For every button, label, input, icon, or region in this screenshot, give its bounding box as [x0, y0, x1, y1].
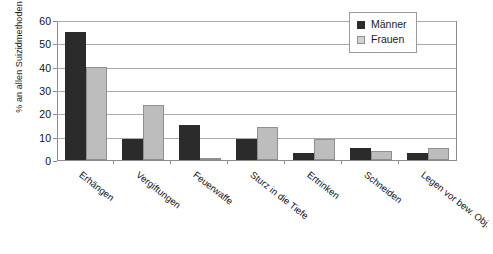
- bar-frauen: [257, 127, 278, 160]
- y-tick-label: 60: [39, 15, 51, 27]
- y-tick-label: 0: [45, 155, 51, 167]
- bar-maenner: [122, 139, 143, 160]
- legend-label-frauen: Frauen: [371, 32, 404, 47]
- x-axis-label: Erhängen: [77, 169, 116, 203]
- bar-maenner: [407, 153, 428, 160]
- legend-item-maenner: Männer: [357, 17, 407, 32]
- x-tick-mark: [113, 160, 114, 164]
- y-tick-label: 30: [39, 85, 51, 97]
- bar-maenner: [236, 139, 257, 160]
- legend: Männer Frauen: [349, 12, 417, 53]
- bar-group: [114, 21, 171, 160]
- bar-frauen: [314, 139, 335, 160]
- legend-swatch-icon-frauen: [357, 36, 365, 44]
- x-axis-label: Ertrinken: [305, 169, 342, 201]
- y-tick-label: 10: [39, 132, 51, 144]
- bar-frauen: [428, 148, 449, 160]
- legend-swatch-icon-maenner: [357, 21, 365, 29]
- y-tick-label: 40: [39, 62, 51, 74]
- x-tick-mark: [284, 160, 285, 164]
- y-tick-mark: [53, 161, 57, 162]
- x-label-cell: Erhängen: [57, 167, 114, 251]
- bar-group: [57, 21, 114, 160]
- bar-maenner: [65, 32, 86, 160]
- x-label-cell: Sturz in die Tiefe: [228, 167, 285, 251]
- y-tick-label: 20: [39, 108, 51, 120]
- x-label-cell: Vergiftungen: [114, 167, 171, 251]
- x-label-cell: Ertrinken: [286, 167, 343, 251]
- x-axis-label: Schneiden: [362, 169, 404, 205]
- x-label-cell: Legen vor bew. Obj.: [400, 167, 457, 251]
- bar-frauen: [200, 158, 221, 160]
- bar-group: [171, 21, 228, 160]
- bar-maenner: [293, 153, 314, 160]
- x-axis-label: Legen vor bew. Obj.: [420, 169, 493, 230]
- x-tick-mark: [398, 160, 399, 164]
- bar-frauen: [143, 105, 164, 160]
- legend-item-frauen: Frauen: [357, 32, 407, 47]
- bar-maenner: [350, 148, 371, 160]
- y-tick-label: 50: [39, 38, 51, 50]
- bar-frauen: [86, 67, 107, 160]
- x-tick-mark: [170, 160, 171, 164]
- bar-group: [228, 21, 285, 160]
- bar-group: [285, 21, 342, 160]
- x-axis-labels: ErhängenVergiftungenFeuerwaffeSturz in d…: [57, 167, 457, 251]
- x-tick-mark: [227, 160, 228, 164]
- x-label-cell: Schneiden: [343, 167, 400, 251]
- y-axis-title: % an allen Suizidmethoden: [14, 0, 24, 132]
- bar-frauen: [371, 151, 392, 160]
- bar-maenner: [179, 125, 200, 160]
- x-tick-mark: [341, 160, 342, 164]
- x-label-cell: Feuerwaffe: [171, 167, 228, 251]
- legend-label-maenner: Männer: [371, 17, 407, 32]
